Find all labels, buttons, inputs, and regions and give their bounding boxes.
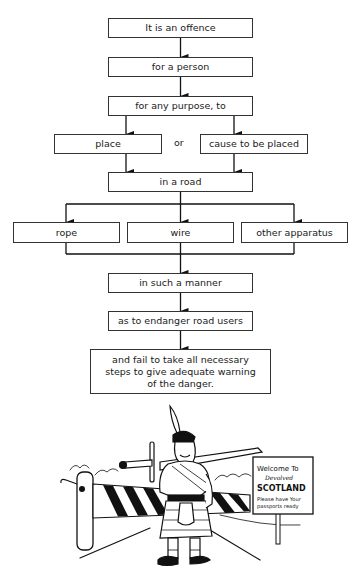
box-in-road: in a road bbox=[108, 172, 253, 192]
sign-line2: Devolved bbox=[264, 474, 293, 481]
sign-line4: Please have Your bbox=[257, 496, 302, 502]
sign-line5: passports ready bbox=[257, 503, 299, 510]
box-wire: wire bbox=[127, 222, 234, 243]
box-person: for a person bbox=[108, 57, 253, 77]
welcome-sign: Welcome To Devolved SCOTLAND Please have… bbox=[253, 457, 313, 544]
box-other-apparatus: other apparatus bbox=[241, 222, 348, 243]
sign-line1: Welcome To bbox=[257, 465, 299, 473]
box-warning: and fail to take all necessary steps to … bbox=[90, 349, 271, 394]
gate-post-icon bbox=[61, 472, 93, 550]
or-label: or bbox=[174, 137, 184, 148]
box-manner: in such a manner bbox=[108, 273, 253, 293]
highlander-illustration: Welcome To Devolved SCOTLAND Please have… bbox=[0, 400, 361, 578]
sign-line3: SCOTLAND bbox=[257, 484, 306, 493]
box-offence: It is an offence bbox=[108, 18, 253, 38]
box-place: place bbox=[54, 134, 162, 154]
box-cause-placed: cause to be placed bbox=[200, 134, 308, 154]
box-endanger: as to endanger road users bbox=[108, 311, 253, 331]
box-rope: rope bbox=[13, 222, 120, 243]
highlander-figure bbox=[158, 406, 212, 566]
box-purpose: for any purpose, to bbox=[108, 96, 253, 116]
